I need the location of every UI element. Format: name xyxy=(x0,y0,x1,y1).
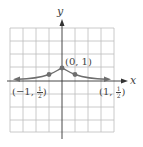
peak-point-label: (0, 1) xyxy=(65,57,92,67)
left-point-label: (−1, 12) xyxy=(12,86,47,99)
y-axis-label: y xyxy=(57,6,63,17)
x-axis-label: x xyxy=(130,75,136,86)
graph-canvas xyxy=(0,0,143,147)
right-point-label-suffix: ) xyxy=(121,86,125,97)
point-0-1 xyxy=(60,66,65,71)
function-graph: y x (0, 1) (−1, 12) (1, 12) xyxy=(0,0,143,147)
y-axis xyxy=(60,19,65,139)
y-axis-arrow-icon xyxy=(60,19,65,26)
x-axis-arrow-icon xyxy=(121,79,128,84)
left-point-label-suffix: ) xyxy=(43,86,47,97)
point-neg1-half xyxy=(47,72,52,77)
left-point-label-prefix: (−1, xyxy=(12,86,37,97)
right-point-label: (1, 12) xyxy=(99,86,125,99)
right-point-label-prefix: (1, xyxy=(99,86,116,97)
point-1-half xyxy=(73,72,78,77)
